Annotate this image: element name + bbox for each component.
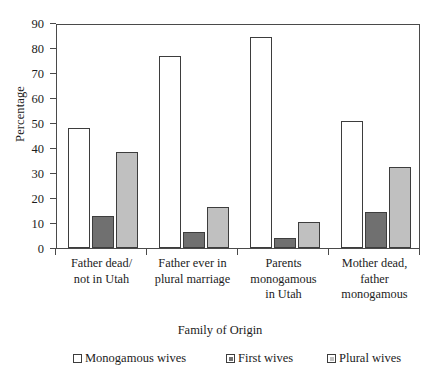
bar [250, 37, 272, 248]
y-axis-tick-label: 80 [0, 43, 44, 56]
x-axis-tick [146, 249, 147, 255]
bar [365, 212, 387, 248]
chart-legend: Monogamous wivesFirst wivesPlural wives [0, 351, 440, 369]
y-axis-tick-label: 0 [0, 243, 44, 256]
x-axis-tick [419, 249, 420, 255]
bar [92, 216, 114, 249]
y-axis-tick-label: 10 [0, 218, 44, 231]
legend-swatch [226, 354, 235, 363]
legend-swatch-fill [229, 357, 233, 361]
legend-label: Plural wives [339, 351, 401, 366]
x-axis-category-label-line: Mother dead, [321, 256, 428, 272]
x-axis-title: Family of Origin [0, 323, 440, 338]
bar [159, 56, 181, 249]
x-axis-tick [328, 249, 329, 255]
bar [389, 167, 411, 248]
y-axis-tick-label: 60 [0, 93, 44, 106]
y-axis-tick-label: 70 [0, 68, 44, 81]
legend-label: Monogamous wives [85, 351, 186, 366]
y-axis-tick-label: 30 [0, 168, 44, 181]
bar [116, 152, 138, 248]
bar [183, 232, 205, 248]
bar [68, 128, 90, 248]
x-axis-category-label-line: monogamous [321, 287, 428, 303]
bar-chart-figure: Percentage 0102030405060708090 Father de… [0, 0, 440, 387]
bar [341, 121, 363, 249]
bar [298, 222, 320, 248]
x-axis-category-label: Mother dead,fathermonogamous [321, 256, 428, 303]
legend-label: First wives [238, 351, 293, 366]
legend-item: Plural wives [327, 351, 401, 366]
legend-swatch [73, 354, 82, 363]
y-axis-tick-label: 50 [0, 118, 44, 131]
legend-swatch [327, 354, 336, 363]
x-axis-tick [237, 249, 238, 255]
legend-item: First wives [226, 351, 293, 366]
x-axis-tick [55, 249, 56, 255]
plot-area [56, 24, 420, 249]
y-axis-tick-label: 40 [0, 143, 44, 156]
y-axis-tick-label: 20 [0, 193, 44, 206]
bar [274, 238, 296, 248]
legend-swatch-fill [330, 357, 334, 361]
bar [207, 207, 229, 248]
y-axis-tick-label: 90 [0, 18, 44, 31]
legend-item: Monogamous wives [73, 351, 186, 366]
x-axis-category-label-line: father [321, 272, 428, 288]
